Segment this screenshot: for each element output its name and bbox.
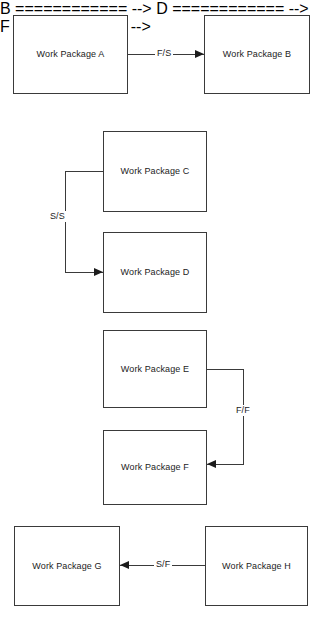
node-work-package-f[interactable]: Work Package F — [103, 430, 207, 505]
node-label-g: Work Package G — [32, 561, 101, 572]
connector-h-g-arrowhead — [120, 561, 129, 569]
node-work-package-g[interactable]: Work Package G — [14, 526, 120, 606]
connector-label-f-f: F/F — [234, 405, 252, 416]
node-work-package-h[interactable]: Work Package H — [205, 526, 308, 606]
connector-c-d-top-segment — [65, 171, 103, 172]
node-work-package-b[interactable]: Work Package B — [204, 15, 310, 94]
node-work-package-d[interactable]: Work Package D — [103, 232, 207, 313]
node-work-package-c[interactable]: Work Package C — [103, 131, 207, 212]
connector-c-d-arrowhead — [94, 268, 103, 276]
ghost-mark-left: · — [47, 1, 49, 8]
node-label-h: Work Package H — [222, 561, 291, 572]
node-work-package-a[interactable]: Work Package A — [13, 15, 128, 94]
connector-e-f-arrowhead — [207, 460, 216, 468]
node-label-e: Work Package E — [121, 364, 189, 375]
node-label-f: Work Package F — [121, 462, 189, 473]
connector-e-f-top-segment — [207, 369, 244, 370]
connector-label-s-f: S/F — [154, 559, 172, 570]
node-work-package-e[interactable]: Work Package E — [103, 330, 207, 408]
diagram-canvas: · · B ============ --> Work Package A Wo… — [0, 0, 322, 622]
connector-label-f-s: F/S — [155, 48, 173, 59]
connector-a-b-arrowhead — [195, 50, 204, 58]
connector-e-f-vertical-segment — [243, 369, 244, 464]
ghost-mark-right: · — [127, 1, 129, 8]
connector-label-s-s: S/S — [48, 211, 67, 222]
node-label-a: Work Package A — [37, 49, 105, 60]
node-label-b: Work Package B — [223, 49, 291, 60]
node-label-d: Work Package D — [121, 267, 190, 278]
node-label-c: Work Package C — [121, 166, 190, 177]
